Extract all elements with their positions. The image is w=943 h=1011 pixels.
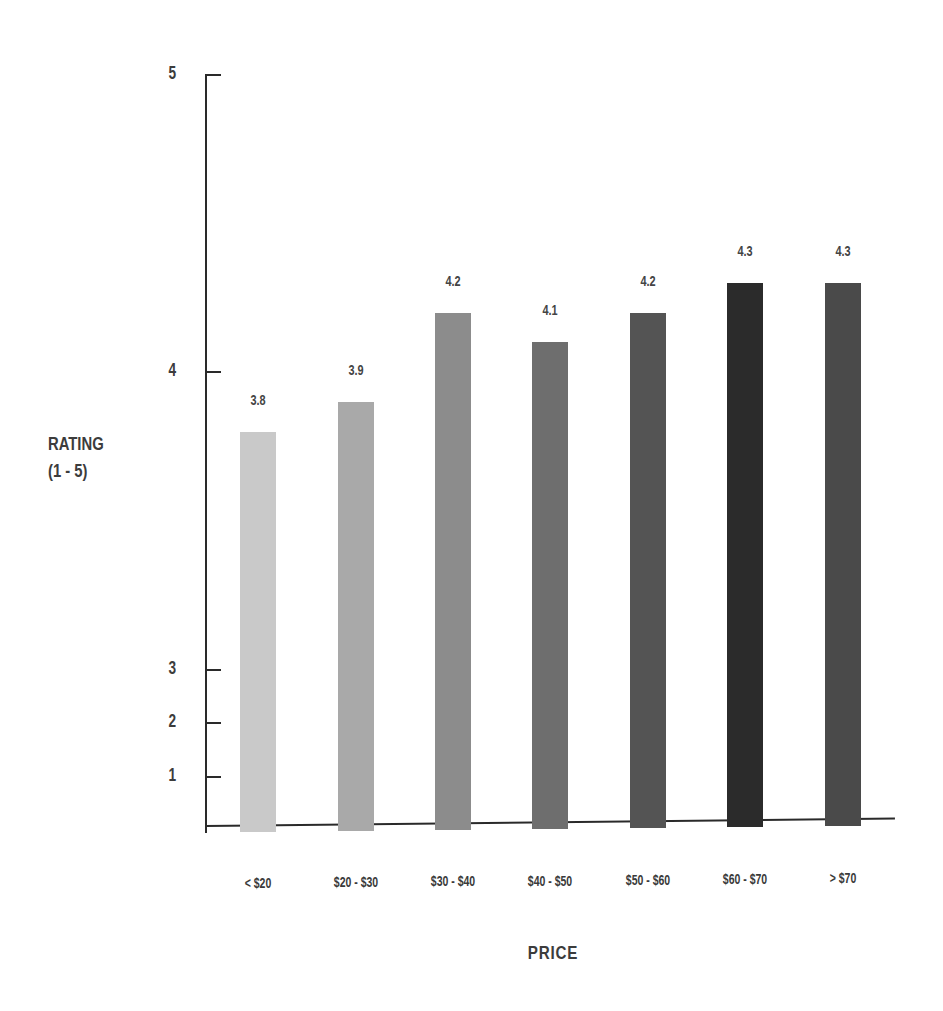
bar-value-label: 4.3 [820,243,867,259]
bar-value-label: 4.2 [430,273,477,289]
y-axis-top-tick [205,74,221,76]
y-tick-label: 3 [147,657,176,679]
x-tick-label: < $20 [221,875,296,891]
bar [338,402,374,831]
x-tick-label: $60 - $70 [708,871,783,887]
bar [240,432,276,832]
y-tick-label: 2 [147,710,176,732]
y-tick-mark [207,722,221,724]
y-tick-mark [207,371,221,373]
x-tick-label: $30 - $40 [416,873,491,889]
y-tick-mark [207,669,221,671]
y-axis-line [205,74,207,833]
bar-value-label: 4.3 [722,243,769,259]
bar-chart: 12345 RATING (1 - 5) 3.8< $203.9$20 - $3… [0,0,943,1011]
bar-value-label: 3.8 [235,392,282,408]
bar [727,283,763,827]
bar-value-label: 4.1 [527,302,574,318]
x-axis-title: PRICE [513,942,593,964]
y-tick-label: 4 [147,359,176,381]
x-tick-label: $40 - $50 [513,873,588,889]
y-tick-mark [207,776,221,778]
bar [532,342,568,829]
y-axis-title: RATING (1 - 5) [48,430,104,484]
x-tick-label: $50 - $60 [611,872,686,888]
x-tick-label: $20 - $30 [319,874,394,890]
bar [435,313,471,830]
bar [630,313,666,828]
y-tick-label: 1 [147,764,176,786]
y-axis-title-line-1: RATING [48,430,104,457]
bar-value-label: 4.2 [625,273,672,289]
x-tick-label: > $70 [806,870,881,886]
y-tick-label: 5 [147,62,176,84]
y-axis-title-line-2: (1 - 5) [48,457,104,484]
bar-value-label: 3.9 [333,362,380,378]
bar [825,283,861,826]
